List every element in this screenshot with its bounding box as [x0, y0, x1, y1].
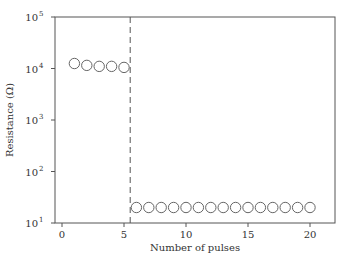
- x-tick-label: 20: [304, 229, 317, 240]
- data-point: [156, 202, 166, 212]
- data-point: [243, 202, 253, 212]
- plot-frame: [55, 17, 335, 223]
- data-point: [144, 202, 154, 212]
- y-tick-exponent: 1: [39, 216, 43, 224]
- y-tick-label: 10: [25, 12, 38, 23]
- x-axis-ticks: 05101520: [59, 223, 317, 240]
- y-tick-label: 10: [25, 64, 38, 75]
- y-tick-label: 10: [25, 115, 38, 126]
- y-tick-exponent: 4: [39, 62, 44, 70]
- data-points: [69, 58, 315, 212]
- x-tick-label: 5: [121, 229, 127, 240]
- data-point: [305, 202, 315, 212]
- y-axis-ticks: 101102103104105: [25, 10, 55, 229]
- data-point: [82, 60, 92, 70]
- data-point: [280, 202, 290, 212]
- y-tick-label: 10: [25, 218, 38, 229]
- data-point: [168, 202, 178, 212]
- x-tick-label: 0: [59, 229, 65, 240]
- x-tick-label: 15: [242, 229, 255, 240]
- resistance-chart: 05101520 101102103104105 Number of pulse…: [0, 0, 355, 269]
- data-point: [268, 202, 278, 212]
- data-point: [193, 202, 203, 212]
- data-point: [181, 202, 191, 212]
- data-point: [69, 58, 79, 68]
- y-tick-exponent: 3: [39, 113, 43, 121]
- data-point: [106, 61, 116, 71]
- x-axis-title: Number of pulses: [150, 242, 240, 253]
- data-point: [131, 202, 141, 212]
- data-point: [94, 61, 104, 71]
- y-tick-label: 10: [25, 167, 38, 178]
- data-point: [230, 202, 240, 212]
- data-point: [119, 62, 129, 72]
- y-tick-exponent: 2: [39, 165, 43, 173]
- data-point: [255, 202, 265, 212]
- data-point: [206, 202, 216, 212]
- data-point: [292, 202, 302, 212]
- data-point: [218, 202, 228, 212]
- y-axis-title: Resistance (Ω): [4, 83, 15, 157]
- y-tick-exponent: 5: [39, 10, 43, 18]
- x-tick-label: 10: [180, 229, 193, 240]
